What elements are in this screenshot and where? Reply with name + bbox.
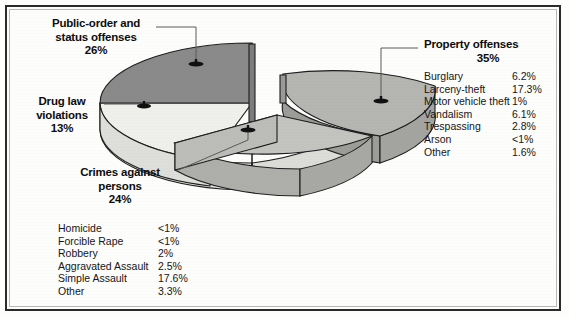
breakdown-crimes-against-persons: Homicide<1%Forcible Rape<1%Robbery2%Aggr… — [58, 222, 204, 298]
breakdown-row: Robbery2% — [58, 247, 204, 260]
pie-chart-figure: Public-order and status offenses 26% Dru… — [0, 0, 569, 319]
breakdown-item-name: Other — [424, 146, 512, 159]
breakdown-item-value: 17.3% — [512, 83, 556, 96]
breakdown-item-name: Arson — [424, 133, 512, 146]
callout-public-order-line1: Public-order and — [52, 17, 140, 29]
breakdown-item-value: 2.8% — [512, 120, 556, 133]
breakdown-item-value: <1% — [512, 133, 556, 146]
breakdown-item-name: Forcible Rape — [58, 235, 158, 248]
breakdown-item-name: Robbery — [58, 247, 158, 260]
breakdown-item-value: 6.1% — [512, 108, 556, 121]
callout-drug-law-line2: violations — [36, 109, 88, 121]
breakdown-row: Forcible Rape<1% — [58, 235, 204, 248]
breakdown-item-name: Homicide — [58, 222, 158, 235]
breakdown-row: Larceny-theft17.3% — [424, 83, 556, 96]
breakdown-property-offenses: Burglary6.2%Larceny-theft17.3%Motor vehi… — [424, 70, 556, 158]
callout-drug-law: Drug law violations 13% — [14, 95, 110, 136]
marker-stem-drug-law — [143, 101, 145, 106]
breakdown-item-value: <1% — [158, 235, 204, 248]
callout-public-order-pct: 26% — [22, 44, 170, 58]
breakdown-row: Simple Assault17.6% — [58, 272, 204, 285]
breakdown-item-value: 2.5% — [158, 260, 204, 273]
breakdown-item-name: Larceny-theft — [424, 83, 512, 96]
breakdown-row: Arson<1% — [424, 133, 556, 146]
callout-public-order-line2: status offenses — [55, 31, 136, 43]
breakdown-row: Motor vehicle theft1% — [424, 95, 556, 108]
callout-drug-law-pct: 13% — [14, 122, 110, 136]
callout-drug-law-line1: Drug law — [39, 95, 86, 107]
breakdown-row: Burglary6.2% — [424, 70, 556, 83]
callout-property-pct: 35% — [424, 52, 552, 66]
callout-public-order: Public-order and status offenses 26% — [22, 17, 170, 58]
breakdown-item-value: 1.6% — [512, 146, 556, 159]
callout-property: Property offenses 35% — [424, 38, 564, 65]
breakdown-row: Other3.3% — [58, 285, 204, 298]
callout-persons-line1: Crimes against — [80, 166, 160, 178]
breakdown-item-name: Motor vehicle theft — [424, 95, 512, 108]
breakdown-row: Trespassing2.8% — [424, 120, 556, 133]
breakdown-item-value: 3.3% — [158, 285, 204, 298]
marker-stem-public-order — [195, 59, 197, 64]
breakdown-item-name: Simple Assault — [58, 272, 158, 285]
breakdown-item-name: Vandalism — [424, 108, 512, 121]
marker-stem-persons — [247, 125, 249, 130]
breakdown-item-name: Trespassing — [424, 120, 512, 133]
breakdown-item-value: 6.2% — [512, 70, 556, 83]
breakdown-item-name: Burglary — [424, 70, 512, 83]
callout-persons-pct: 24% — [58, 193, 182, 207]
marker-stem-property — [380, 96, 382, 101]
breakdown-row: Other1.6% — [424, 146, 556, 159]
breakdown-row: Aggravated Assault2.5% — [58, 260, 204, 273]
breakdown-item-name: Other — [58, 285, 158, 298]
callout-persons: Crimes against persons 24% — [58, 166, 182, 207]
breakdown-item-value: 2% — [158, 247, 204, 260]
breakdown-item-value: 1% — [512, 95, 556, 108]
callout-persons-line2: persons — [98, 180, 141, 192]
callout-property-line1: Property offenses — [424, 38, 518, 50]
breakdown-row: Vandalism6.1% — [424, 108, 556, 121]
breakdown-item-value: <1% — [158, 222, 204, 235]
slice-cut-wall-property — [280, 75, 286, 103]
breakdown-item-value: 17.6% — [158, 272, 204, 285]
breakdown-row: Homicide<1% — [58, 222, 204, 235]
breakdown-item-name: Aggravated Assault — [58, 260, 158, 273]
